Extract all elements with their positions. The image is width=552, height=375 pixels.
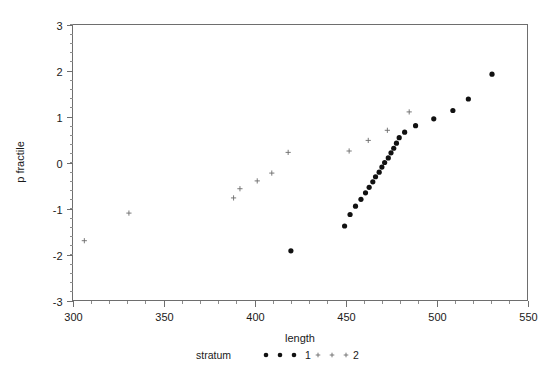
series-stratum-2-points <box>82 109 412 243</box>
legend-key-stratum-2[interactable] <box>316 353 349 358</box>
x-axis-title: length <box>285 332 315 344</box>
x-tick-label: 400 <box>246 311 264 323</box>
data-point-stratum-1 <box>489 72 494 77</box>
y-tick-label: -3 <box>53 296 63 308</box>
data-point-stratum-1 <box>382 160 387 165</box>
y-tick-label: 2 <box>56 66 62 78</box>
data-point-stratum-1 <box>379 165 384 170</box>
legend-key-stratum-1[interactable] <box>264 353 297 358</box>
x-tick-label: 300 <box>64 311 82 323</box>
data-point-stratum-1 <box>466 96 471 101</box>
plot-canvas: 300350400450500550 -3-2-10123 length p f… <box>0 0 552 375</box>
data-point-stratum-1 <box>373 174 378 179</box>
x-axis-major-ticks <box>74 301 529 307</box>
y-tick-label: -1 <box>53 204 63 216</box>
x-axis-tick-labels: 300350400450500550 <box>64 311 537 323</box>
x-tick-label: 450 <box>337 311 355 323</box>
data-point-stratum-1 <box>370 179 375 184</box>
plot-border <box>73 25 528 301</box>
y-tick-label: 0 <box>56 158 62 170</box>
y-axis-title: p fractile <box>14 141 26 183</box>
data-point-stratum-1 <box>363 190 368 195</box>
y-axis-tick-labels: -3-2-10123 <box>53 20 63 308</box>
y-tick-label: 1 <box>56 112 62 124</box>
data-point-stratum-1 <box>288 248 293 253</box>
data-point-stratum-1 <box>347 212 352 217</box>
data-point-stratum-1 <box>358 197 363 202</box>
x-tick-label: 500 <box>428 311 446 323</box>
legend-label-stratum-2: 2 <box>353 349 359 361</box>
x-tick-label: 350 <box>155 311 173 323</box>
data-point-stratum-1 <box>353 204 358 209</box>
data-point-stratum-1 <box>342 223 347 228</box>
data-point-stratum-1 <box>367 185 372 190</box>
data-point-stratum-1 <box>397 135 402 140</box>
data-point-stratum-1 <box>402 130 407 135</box>
y-tick-label: -2 <box>53 250 63 262</box>
x-tick-label: 550 <box>519 311 537 323</box>
data-point-stratum-1 <box>394 141 399 146</box>
legend-title: stratum <box>196 349 231 361</box>
data-point-stratum-1 <box>450 108 455 113</box>
data-point-stratum-1 <box>386 155 391 160</box>
data-point-stratum-1 <box>388 150 393 155</box>
y-tick-label: 3 <box>56 20 62 32</box>
series-stratum-1-points <box>288 72 494 254</box>
data-point-stratum-1 <box>413 123 418 128</box>
scatter-plot-figure: 300350400450500550 -3-2-10123 length p f… <box>0 0 552 375</box>
legend-label-stratum-1: 1 <box>305 349 311 361</box>
plot-frame <box>73 25 528 301</box>
y-axis-major-ticks <box>67 26 73 302</box>
legend-marker-stratum-1 <box>278 353 283 358</box>
data-point-stratum-1 <box>377 170 382 175</box>
data-point-stratum-1 <box>431 116 436 121</box>
legend-marker-stratum-1 <box>264 353 269 358</box>
legend-marker-stratum-1 <box>292 353 297 358</box>
legend: stratum 1 2 <box>196 349 359 361</box>
data-point-stratum-1 <box>391 146 396 151</box>
